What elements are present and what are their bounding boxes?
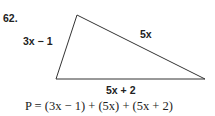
side-label-left: 3x − 1 — [23, 35, 53, 47]
side-label-hypotenuse: 5x — [140, 28, 152, 40]
perimeter-formula: P = (3x − 1) + (5x) + (5x + 2) — [25, 99, 173, 114]
side-label-base: 5x + 2 — [106, 84, 136, 96]
